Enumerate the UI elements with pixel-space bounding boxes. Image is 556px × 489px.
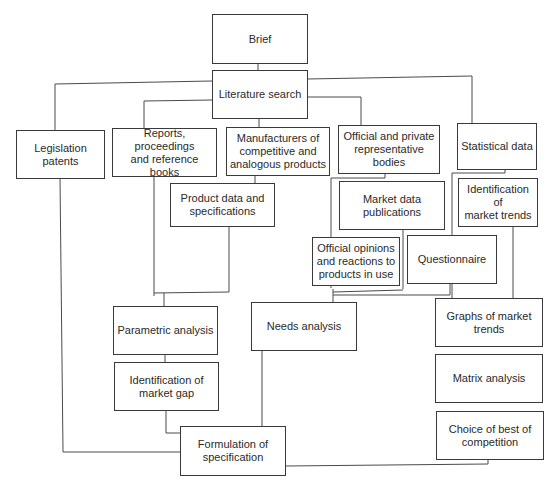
node-legislation-patents: Legislation patents bbox=[16, 130, 105, 179]
node-reports: Reports, proceedings and reference books bbox=[112, 128, 217, 177]
node-choice-best-competition: Choice of best of competition bbox=[436, 411, 544, 460]
node-official-bodies: Official and private representative bodi… bbox=[338, 125, 440, 174]
node-formulation-specification: Formulation of specification bbox=[180, 426, 286, 476]
node-identification-trends: Identification of market trends bbox=[458, 178, 538, 227]
node-identification-gap: Identification of market gap bbox=[114, 362, 219, 411]
node-matrix-analysis: Matrix analysis bbox=[435, 354, 543, 403]
node-parametric-analysis: Parametric analysis bbox=[113, 306, 218, 355]
node-literature-search: Literature search bbox=[212, 70, 308, 119]
flowchart: Brief Literature search Legislation pate… bbox=[0, 0, 556, 489]
node-manufacturers: Manufacturers of competitive and analogo… bbox=[226, 127, 330, 176]
node-brief: Brief bbox=[212, 14, 308, 64]
node-official-opinions: Official opinions and reactions to produ… bbox=[312, 237, 400, 286]
node-questionnaire: Questionnaire bbox=[407, 235, 497, 284]
node-market-data: Market data publications bbox=[339, 181, 445, 230]
node-statistical-data: Statistical data bbox=[457, 123, 537, 170]
node-product-data: Product data and specifications bbox=[170, 183, 275, 227]
node-needs-analysis: Needs analysis bbox=[251, 302, 357, 351]
node-graphs-trends: Graphs of market trends bbox=[435, 298, 543, 347]
